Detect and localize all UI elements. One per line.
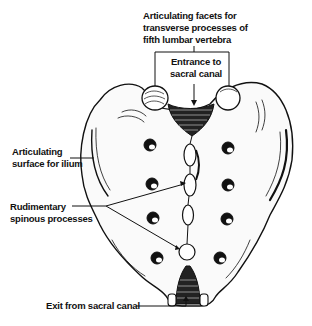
spinous-line-2: spinous processes <box>10 213 93 225</box>
label-entrance-sacral-canal: Entrance to sacral canal <box>170 56 222 80</box>
entrance-line-1: Entrance to <box>170 56 222 68</box>
foramen-right-2 <box>222 179 234 191</box>
foramen-left-2 <box>146 178 158 190</box>
foramen-left-4 <box>151 252 163 264</box>
foramen-right-4 <box>214 252 226 264</box>
spinous-line-1: Rudimentary <box>10 201 93 213</box>
spinous-process-2 <box>184 174 196 196</box>
facets-line-1: Articulating facets for <box>143 10 248 22</box>
foramen-left-1 <box>144 139 156 151</box>
ilium-line-2: surface for ilium <box>12 158 83 170</box>
ilium-line-1: Articulating <box>12 146 83 158</box>
facets-line-3: fifth lumbar vertebra <box>143 34 248 46</box>
foramen-left-3 <box>147 212 159 224</box>
exit-line-1: Exit from sacral canal <box>46 300 140 312</box>
spinous-process-1 <box>184 144 196 166</box>
facets-line-2: transverse processes of <box>143 22 248 34</box>
foramen-right-1 <box>222 142 234 154</box>
right-facet <box>216 86 240 110</box>
entrance-line-2: sacral canal <box>170 68 222 80</box>
foramen-right-3 <box>221 213 233 225</box>
label-exit-sacral-canal: Exit from sacral canal <box>46 300 140 312</box>
label-articulating-surface-ilium: Articulating surface for ilium <box>12 146 83 170</box>
spinous-process-3 <box>183 205 194 225</box>
spinous-process-4 <box>179 244 195 260</box>
label-articulating-facets: Articulating facets for transverse proce… <box>143 10 248 46</box>
label-rudimentary-spinous-processes: Rudimentary spinous processes <box>10 201 93 225</box>
